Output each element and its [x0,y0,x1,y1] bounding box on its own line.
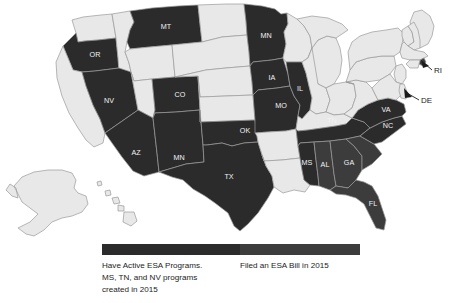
legend-entry-filed-bill: Filed an ESA Bill in 2015 [240,260,360,297]
state-AK[interactable] [6,170,88,236]
state-HI[interactable] [97,181,137,226]
legend-active-line-1: Have Active ESA Programs. [102,260,240,272]
legend-active-line-3: created in 2015 [102,284,240,296]
state-FL[interactable] [330,180,386,230]
legend-text-row: Have Active ESA Programs. MS, TN, and NV… [102,260,360,297]
legend-swatch-active-programs [102,244,240,255]
map-states-layer [6,4,434,236]
state-MT[interactable] [127,5,202,49]
legend-swatch-row [102,244,360,255]
map-legend: Have Active ESA Programs. MS, TN, and NV… [102,244,360,297]
state-MN[interactable] [244,4,288,66]
legend-entry-active-programs: Have Active ESA Programs. MS, TN, and NV… [102,260,240,297]
callout-label-RI: RI [434,66,442,75]
legend-swatch-filed-bill [240,244,360,255]
legend-filed-line-1: Filed an ESA Bill in 2015 [240,260,360,272]
state-WA[interactable] [72,14,116,42]
callout-label-DE: DE [421,96,432,105]
us-choropleth-map: OR MT NV CO AZ MN MN IA IL MO OK TX TN M… [0,0,462,250]
legend-active-line-2: MS, TN, and NV programs [102,272,240,284]
callout-arrow-DE [404,88,412,98]
esa-programs-map-figure: OR MT NV CO AZ MN MN IA IL MO OK TX TN M… [0,0,462,303]
state-NJ[interactable] [394,64,406,84]
state-CT[interactable] [406,60,420,68]
